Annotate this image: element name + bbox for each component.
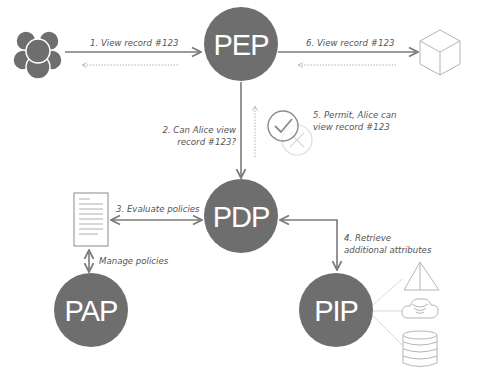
checkmark-circle-icon	[268, 111, 298, 141]
database-icon	[403, 331, 437, 367]
edge-retrieve-attributes: 4. Retrieve additional attributes	[280, 220, 432, 270]
edge-label-1: 1. View record #123	[90, 38, 178, 48]
node-pip: PIP	[299, 273, 373, 347]
document-icon	[74, 193, 108, 246]
abac-diagram: 1. View record #123 PEP 6. View record #…	[0, 0, 477, 379]
pyramid-icon	[404, 262, 439, 290]
node-pep-label: PEP	[213, 29, 268, 61]
node-pep: PEP	[204, 7, 278, 81]
cube-icon	[420, 30, 460, 75]
node-pap: PAP	[54, 273, 128, 347]
edge-label-manage: Manage policies	[99, 256, 169, 266]
edge-evaluate-policies: 3. Evaluate policies	[111, 204, 202, 220]
node-pdp-label: PDP	[213, 201, 270, 233]
edge-manage-policies: Manage policies	[89, 250, 169, 272]
edge-resource-access: 6. View record #123	[278, 38, 418, 65]
edge-label-2a: 2. Can Alice view	[162, 125, 237, 135]
node-pap-label: PAP	[65, 295, 118, 327]
edge-authorization-request: 2. Can Alice view record #123?	[162, 82, 241, 178]
edge-label-6: 6. View record #123	[306, 38, 394, 48]
cloud-icon	[402, 299, 438, 318]
users-group-icon	[13, 31, 62, 79]
node-pip-label: PIP	[314, 295, 358, 327]
source-connectors	[373, 279, 402, 345]
edge-label-5b: view record #123	[313, 122, 390, 132]
edge-label-4a: 4. Retrieve	[344, 233, 391, 243]
edge-label-2b: record #123?	[177, 137, 236, 147]
edge-label-4b: additional attributes	[344, 245, 432, 255]
edge-label-5a: 5. Permit, Alice can	[313, 110, 396, 120]
node-pdp: PDP	[204, 179, 278, 253]
edge-label-3: 3. Evaluate policies	[116, 204, 200, 214]
edge-view-request: 1. View record #123	[65, 38, 201, 65]
